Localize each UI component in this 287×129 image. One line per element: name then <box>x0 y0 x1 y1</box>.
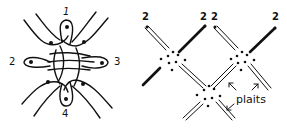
loop-label-1: 1 <box>63 7 69 17</box>
strand-count-top-mid-b: 2 <box>211 12 218 22</box>
loop-label-2: 2 <box>9 57 15 67</box>
loop-label-4: 4 <box>62 109 68 119</box>
strand-count-top-left: 2 <box>142 12 149 22</box>
plaits-annotation: plaits <box>236 94 266 105</box>
strand-count-top-mid-a: 2 <box>200 12 207 22</box>
loop-label-3: 3 <box>114 57 120 67</box>
strand-count-top-right: 2 <box>272 12 279 22</box>
